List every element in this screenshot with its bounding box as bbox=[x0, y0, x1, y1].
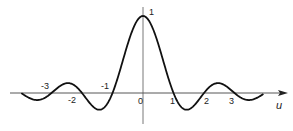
label-zero: 0 bbox=[138, 96, 143, 106]
axis-label-u: u bbox=[276, 99, 282, 111]
label-pos2: 2 bbox=[204, 96, 209, 106]
sinc-plot: 1 -3 -2 -1 0 1 2 3 u bbox=[0, 0, 293, 131]
label-neg2: -2 bbox=[68, 95, 76, 105]
label-neg1: -1 bbox=[101, 81, 109, 91]
label-pos3: 3 bbox=[229, 96, 234, 106]
peak-label: 1 bbox=[149, 7, 154, 17]
label-pos1: 1 bbox=[170, 96, 175, 106]
label-neg3: -3 bbox=[41, 81, 49, 91]
